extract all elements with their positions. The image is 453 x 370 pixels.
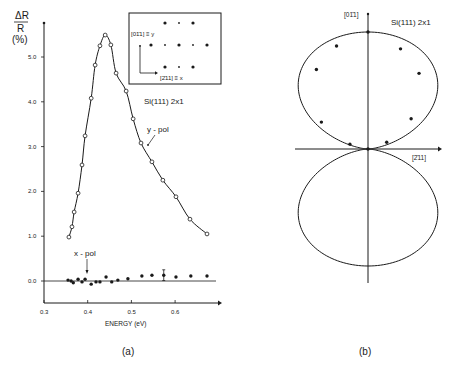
xpol-point — [189, 274, 192, 277]
inset-x-label: [2̄11] ≡ x — [160, 75, 183, 81]
panel-b-polar: [01̄1] [2̄11] Si(111) 2x1 — [295, 11, 442, 283]
ypol-point — [98, 44, 102, 48]
x-tick-label: 0.6 — [171, 309, 180, 315]
ylabel-unit: (%) — [12, 34, 28, 45]
ypol-point — [174, 195, 178, 199]
xpol-point — [104, 275, 107, 278]
leed-spot — [163, 65, 166, 68]
polar-point — [409, 117, 412, 120]
ypol-point — [103, 33, 107, 37]
y-tick-label: 3.0 — [28, 144, 37, 150]
leed-spot — [192, 44, 194, 46]
xpol-point — [89, 282, 92, 285]
xpol-point — [66, 278, 69, 281]
x-tick-label: 0.4 — [84, 309, 93, 315]
leed-spot — [178, 22, 180, 24]
sample-label-b: Si(111) 2x1 — [391, 18, 431, 27]
x-axis-arrowhead — [218, 301, 222, 306]
leed-spot — [191, 65, 194, 68]
ypol-pointer — [148, 135, 155, 145]
polar-point — [335, 44, 338, 47]
polar-vertical-arrowhead — [367, 13, 369, 15]
ypol-point — [72, 210, 76, 214]
xpol-point — [150, 273, 153, 276]
xpol-point — [140, 274, 143, 277]
xpol-point — [76, 278, 79, 281]
xpol-point — [174, 275, 177, 278]
x-tick-label: 0.3 — [40, 309, 49, 315]
y-tick-label: 4.0 — [28, 99, 37, 105]
panel-label-a: (a) — [122, 346, 134, 357]
xpol-point — [98, 280, 101, 283]
ypol-point — [70, 225, 74, 229]
leed-spot — [191, 21, 194, 24]
y-tick-label: 2.0 — [28, 188, 37, 194]
polar-point — [315, 68, 318, 71]
ypol-point — [131, 117, 135, 121]
ypol-point — [76, 191, 80, 195]
polar-horizontal-label: [2̄11] — [412, 154, 426, 162]
leed-spot — [205, 43, 208, 46]
ypol-label: y - pol — [147, 125, 169, 134]
y-axis-arrowhead — [43, 22, 46, 25]
ypol-point — [150, 160, 154, 164]
inset-y-arrowhead — [139, 45, 141, 47]
x-ticks: 0.30.40.50.6 — [40, 300, 180, 315]
xpol-point — [80, 280, 83, 283]
polar-point — [320, 120, 323, 123]
ypol-point — [109, 43, 113, 47]
ypol-point — [114, 71, 118, 75]
polar-point — [417, 72, 420, 75]
ypol-point — [139, 141, 143, 145]
xpol-point — [126, 277, 129, 280]
panel-label-b: (b) — [359, 346, 371, 357]
xpol-point — [94, 280, 97, 283]
polar-point — [399, 47, 402, 50]
xpol-point — [83, 278, 86, 281]
ypol-point — [188, 217, 192, 221]
polar-point — [366, 30, 369, 33]
sample-label-a: Si(111) 2x1 — [144, 97, 184, 106]
ylabel-bottom: R — [17, 23, 24, 34]
y-tick-label: 5.0 — [28, 54, 37, 60]
polar-vertical-label: [01̄1] — [344, 11, 359, 19]
leed-spot — [163, 21, 166, 24]
leed-spot — [178, 66, 180, 68]
ypol-point — [205, 232, 209, 236]
y-tick-label: 1.0 — [28, 233, 37, 239]
polar-point — [385, 140, 388, 143]
x-tick-label: 0.5 — [127, 309, 136, 315]
polar-point — [366, 147, 369, 150]
y-tick-label: 0.0 — [28, 278, 37, 284]
xpol-series — [66, 270, 208, 286]
leed-spot — [177, 43, 180, 46]
polar-point — [348, 142, 351, 145]
polar-horizontal-arrowhead — [438, 147, 442, 152]
ypol-point — [93, 63, 97, 67]
ypol-point — [89, 96, 93, 100]
figure: 0.01.02.03.04.05.0 0.30.40.50.6 ΔR R (%)… — [0, 0, 453, 370]
xpol-point — [110, 280, 113, 283]
xpol-point — [116, 278, 119, 281]
xlabel: ENERGY (eV) — [105, 320, 146, 328]
xpol-label: x - pol — [74, 249, 96, 258]
ypol-point — [67, 235, 71, 239]
xpol-point — [205, 274, 208, 277]
ypol-point — [124, 89, 128, 93]
y-ticks: 0.01.02.03.04.05.0 — [28, 54, 44, 284]
leed-spot — [164, 44, 166, 46]
ypol-point — [161, 178, 165, 182]
inset-leed-pattern: [01̄1] ≡ y [2̄11] ≡ x — [129, 13, 221, 84]
ylabel-top: ΔR — [15, 10, 29, 21]
ypol-pointer-head — [147, 144, 149, 146]
ypol-point — [83, 134, 87, 138]
xpol-pointer-head — [86, 270, 89, 274]
inset-y-label: [01̄1] ≡ y — [131, 31, 154, 37]
leed-spot — [149, 43, 152, 46]
ypol-point — [80, 163, 84, 167]
xpol-point — [72, 281, 75, 284]
